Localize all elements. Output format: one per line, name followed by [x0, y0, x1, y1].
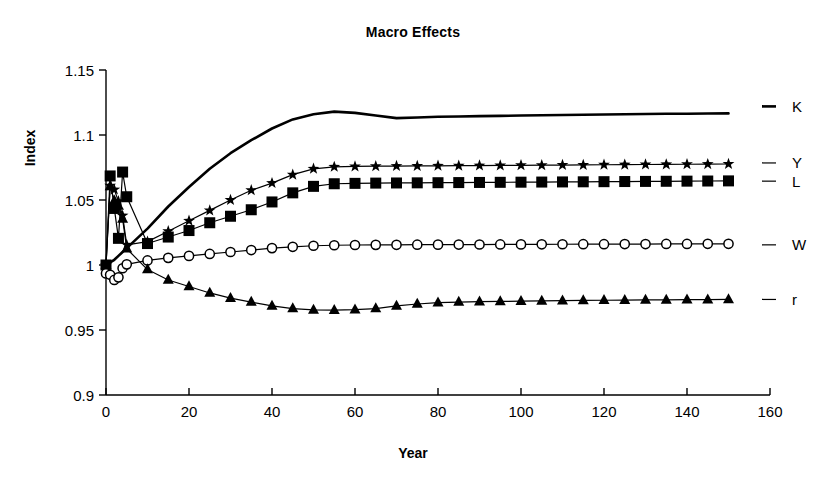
series-marker — [432, 160, 444, 171]
series-marker — [579, 240, 588, 249]
series-marker — [557, 294, 568, 304]
series-marker — [682, 239, 691, 248]
series-marker — [433, 177, 444, 188]
series-marker — [433, 297, 444, 307]
series-marker — [599, 176, 610, 187]
series-Y — [100, 158, 734, 270]
series-marker — [350, 178, 361, 189]
series-marker — [453, 177, 464, 188]
series-marker — [723, 293, 734, 303]
series-W — [101, 239, 733, 284]
series-marker — [329, 178, 340, 189]
series-marker — [391, 177, 402, 188]
x-tick-label: 20 — [181, 403, 198, 420]
series-marker — [391, 160, 403, 171]
series-marker — [122, 260, 131, 269]
series-marker — [661, 176, 672, 187]
series-marker — [114, 273, 123, 282]
series-marker — [724, 239, 733, 248]
series-marker — [516, 177, 527, 188]
series-marker — [225, 211, 236, 222]
y-tick-label: 1.05 — [65, 192, 94, 209]
series-label-K: K — [792, 98, 802, 115]
series-marker — [620, 239, 629, 248]
y-tick-label: 1.1 — [73, 127, 94, 144]
series-marker — [204, 204, 216, 215]
series-marker — [267, 244, 276, 253]
series-marker — [496, 240, 505, 249]
series-marker — [309, 241, 318, 250]
series-marker — [433, 240, 442, 249]
series-marker — [184, 251, 193, 260]
series-marker — [163, 274, 174, 284]
y-axis: 0.90.9511.051.11.15 — [65, 62, 106, 404]
series-marker — [308, 181, 319, 192]
series-marker — [330, 241, 339, 250]
series-marker — [266, 177, 278, 188]
series-marker — [370, 178, 381, 189]
y-tick-label: 1 — [86, 257, 94, 274]
series-marker — [557, 176, 568, 187]
series-marker — [662, 239, 671, 248]
series-marker — [577, 159, 589, 170]
x-tick-label: 80 — [430, 403, 447, 420]
series-marker — [723, 175, 734, 186]
x-axis: 020406080100120140160 — [102, 388, 783, 420]
series-marker — [495, 295, 506, 305]
y-tick-label: 0.95 — [65, 322, 94, 339]
series-marker — [599, 294, 610, 304]
series-marker — [413, 240, 422, 249]
series-marker — [163, 232, 174, 243]
series-marker — [682, 294, 693, 304]
series-marker — [578, 294, 589, 304]
series-marker — [350, 304, 361, 314]
series-marker — [453, 296, 464, 306]
series-marker — [370, 160, 382, 171]
series-marker — [578, 176, 589, 187]
series-marker — [640, 158, 652, 169]
series-marker — [164, 253, 173, 262]
series-marker — [183, 215, 195, 226]
series-label-W: W — [792, 236, 807, 253]
series-marker — [619, 158, 631, 169]
series-marker — [702, 158, 714, 169]
plot-area: 0.90.9511.051.11.15 02040608010012014016… — [0, 0, 826, 495]
series-marker — [702, 293, 713, 303]
series-marker — [142, 238, 153, 249]
y-tick-label: 1.15 — [65, 62, 94, 79]
series-marker — [474, 159, 486, 170]
series-marker — [205, 249, 214, 258]
series-marker — [536, 295, 547, 305]
series-marker — [661, 294, 672, 304]
series-marker — [516, 295, 527, 305]
series-marker — [640, 294, 651, 304]
series-marker — [246, 204, 257, 215]
series-marker — [184, 225, 195, 236]
series-marker — [536, 177, 547, 188]
series-marker — [558, 240, 567, 249]
series-marker — [454, 240, 463, 249]
x-tick-label: 0 — [102, 403, 110, 420]
data-series-group — [100, 112, 734, 314]
series-marker — [474, 177, 485, 188]
series-marker — [287, 302, 298, 312]
series-label-Y: Y — [792, 154, 802, 171]
series-marker — [349, 160, 361, 171]
x-tick-label: 120 — [591, 403, 616, 420]
series-marker — [619, 294, 630, 304]
series-marker — [412, 177, 423, 188]
series-marker — [475, 240, 484, 249]
x-tick-label: 40 — [264, 403, 281, 420]
series-marker — [660, 158, 672, 169]
series-marker — [599, 240, 608, 249]
series-marker — [411, 160, 423, 171]
series-marker — [537, 240, 546, 249]
series-marker — [681, 158, 693, 169]
series-marker — [328, 161, 340, 172]
series-marker — [267, 196, 278, 207]
series-marker — [247, 245, 256, 254]
series-marker — [371, 240, 380, 249]
x-tick-label: 100 — [508, 403, 533, 420]
series-marker — [391, 300, 402, 310]
series-marker — [226, 247, 235, 256]
